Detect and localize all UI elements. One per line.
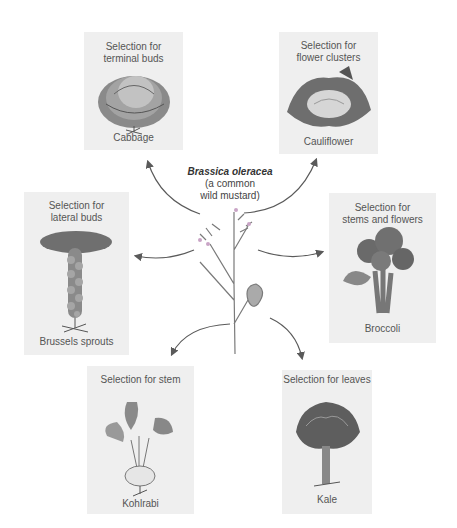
arrow-to-brussels-sprouts — [136, 250, 194, 258]
arrow-to-kohlrabi — [172, 324, 230, 354]
arrow-to-cauliflower — [244, 160, 316, 213]
arrow-to-broccoli — [258, 250, 322, 257]
arrow-to-kale — [270, 318, 302, 358]
arrows-and-plant — [0, 0, 457, 528]
wild-mustard-illustration — [198, 208, 263, 354]
arrow-to-cabbage — [148, 162, 200, 214]
